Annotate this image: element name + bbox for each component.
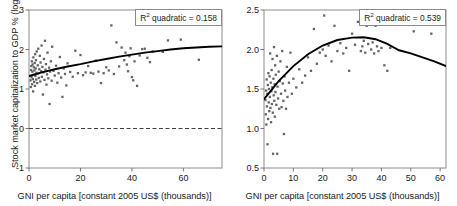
data-point bbox=[65, 84, 67, 86]
data-point bbox=[37, 48, 39, 50]
data-point bbox=[265, 123, 267, 125]
data-point bbox=[124, 52, 126, 54]
data-point bbox=[348, 70, 350, 72]
data-point bbox=[102, 72, 104, 74]
data-point bbox=[286, 96, 288, 98]
data-point bbox=[72, 76, 74, 78]
data-point bbox=[31, 70, 33, 72]
data-point bbox=[132, 79, 134, 81]
data-point bbox=[265, 78, 267, 80]
data-point bbox=[48, 103, 50, 105]
plot-area-private-credit: 01020304050600.51.01.52.02.5 bbox=[228, 0, 457, 206]
data-point bbox=[267, 72, 269, 74]
x-tick-label: 20 bbox=[318, 173, 328, 183]
data-point bbox=[36, 82, 38, 84]
data-point bbox=[40, 44, 42, 46]
data-point bbox=[345, 47, 347, 49]
data-point bbox=[92, 72, 94, 74]
data-point bbox=[277, 97, 279, 99]
data-point bbox=[269, 107, 271, 109]
data-point bbox=[180, 38, 182, 40]
data-point bbox=[39, 80, 41, 82]
data-point bbox=[100, 82, 102, 84]
data-point bbox=[59, 56, 61, 58]
data-point bbox=[34, 62, 36, 64]
data-point bbox=[87, 65, 89, 67]
data-point bbox=[29, 79, 31, 81]
data-point bbox=[377, 50, 379, 52]
data-point bbox=[316, 63, 318, 65]
data-point bbox=[32, 90, 34, 92]
data-point bbox=[39, 55, 41, 57]
data-point bbox=[269, 52, 271, 54]
axes-frame bbox=[264, 10, 446, 168]
data-point bbox=[77, 72, 79, 74]
data-point bbox=[127, 70, 129, 72]
r2-annotation-left-value: quadratic = 0.158 bbox=[150, 13, 217, 23]
data-point bbox=[389, 47, 391, 49]
data-point bbox=[146, 57, 148, 59]
data-point bbox=[273, 46, 275, 48]
data-point bbox=[342, 52, 344, 54]
data-point bbox=[32, 56, 34, 58]
data-point bbox=[270, 121, 272, 123]
data-point bbox=[351, 33, 353, 35]
data-point bbox=[38, 68, 40, 70]
panel-private-credit: 01020304050600.51.01.52.02.5 Private cre… bbox=[228, 0, 457, 206]
x-axis-title-right: GNI per capita [constant 2005 US$ (thous… bbox=[228, 191, 457, 201]
data-point bbox=[280, 93, 282, 95]
data-point bbox=[298, 68, 300, 70]
data-point bbox=[295, 86, 297, 88]
data-point bbox=[149, 61, 151, 63]
data-point bbox=[370, 48, 372, 50]
data-point bbox=[304, 74, 306, 76]
data-point bbox=[288, 82, 290, 84]
data-point bbox=[278, 108, 280, 110]
data-point bbox=[319, 52, 321, 54]
x-tick-label: 40 bbox=[127, 173, 137, 183]
data-point bbox=[269, 96, 271, 98]
y-tick-label: 1.0 bbox=[246, 124, 259, 134]
plot-area-stock-market-capitalization: 0204060-10123 bbox=[0, 0, 229, 206]
data-point bbox=[66, 62, 68, 64]
r2-annotation-right: R2 quadratic = 0.539 bbox=[359, 9, 446, 26]
data-point bbox=[35, 78, 37, 80]
data-point bbox=[167, 39, 169, 41]
data-point bbox=[31, 60, 33, 62]
data-point bbox=[354, 44, 356, 46]
data-point bbox=[307, 56, 309, 58]
data-point bbox=[79, 54, 81, 56]
data-point bbox=[31, 83, 33, 85]
data-point bbox=[322, 48, 324, 50]
data-point bbox=[39, 61, 41, 63]
data-point bbox=[56, 82, 58, 84]
data-point bbox=[118, 65, 120, 67]
data-point bbox=[274, 116, 276, 118]
data-point bbox=[45, 84, 47, 86]
data-point bbox=[373, 52, 375, 54]
data-point bbox=[48, 67, 50, 69]
data-point bbox=[268, 101, 270, 103]
data-point bbox=[54, 74, 56, 76]
data-point bbox=[380, 47, 382, 49]
x-tick-label: 60 bbox=[435, 173, 445, 183]
data-point bbox=[270, 69, 272, 71]
data-point bbox=[276, 153, 278, 155]
data-point bbox=[361, 45, 363, 47]
data-point bbox=[273, 100, 275, 102]
data-point bbox=[198, 59, 200, 61]
data-point bbox=[323, 14, 325, 16]
data-point bbox=[282, 100, 284, 102]
data-point bbox=[284, 89, 286, 91]
x-tick-label: 40 bbox=[376, 173, 386, 183]
data-point bbox=[34, 53, 36, 55]
data-point bbox=[133, 60, 135, 62]
x-tick-label: 60 bbox=[178, 173, 188, 183]
data-point bbox=[136, 85, 138, 87]
data-point bbox=[105, 66, 107, 68]
data-point bbox=[97, 70, 99, 72]
data-point bbox=[274, 64, 276, 66]
data-point bbox=[301, 82, 303, 84]
data-point bbox=[74, 50, 76, 52]
data-point bbox=[339, 42, 341, 44]
